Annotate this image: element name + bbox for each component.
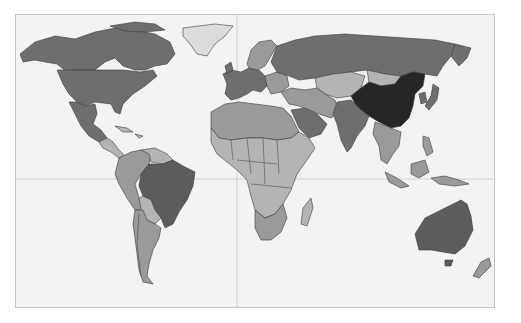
world-map[interactable]: [15, 14, 495, 308]
map-canvas[interactable]: [15, 14, 495, 308]
